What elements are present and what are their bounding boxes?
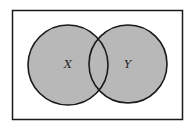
set-x-label: X: [63, 58, 73, 71]
venn-diagram: X Y: [0, 0, 194, 131]
